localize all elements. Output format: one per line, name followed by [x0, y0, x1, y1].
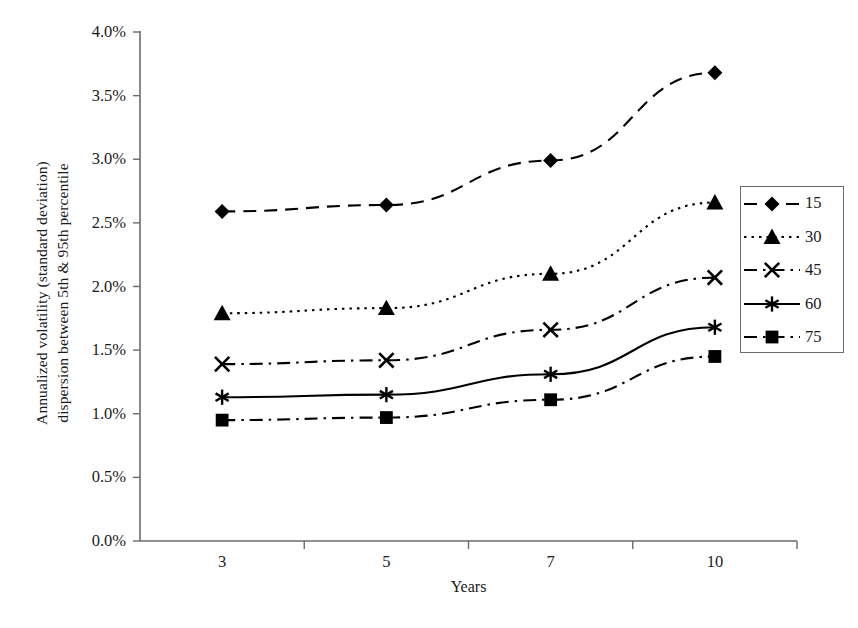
data-point-square-marker — [708, 350, 721, 363]
legend-item-75[interactable]: 75 — [741, 321, 843, 354]
data-point-square-marker — [216, 414, 229, 427]
data-point-diamond-marker — [215, 204, 230, 219]
data-point-square-marker — [766, 331, 779, 344]
data-point-triangle-marker — [214, 305, 231, 320]
legend-swatch-triangle-icon — [741, 224, 803, 250]
series-line-30 — [222, 203, 715, 314]
series-60 — [216, 320, 722, 405]
legend-item-60[interactable]: 60 — [741, 287, 843, 320]
data-point-square-marker — [544, 393, 557, 406]
data-point-triangle-marker — [764, 229, 781, 244]
series-line-60 — [222, 327, 715, 397]
legend-item-45[interactable]: 45 — [741, 254, 843, 287]
data-point-diamond-marker — [379, 198, 394, 213]
legend-label: 45 — [803, 262, 822, 279]
axes-lines — [133, 31, 797, 549]
legend-swatch-square-icon — [741, 324, 803, 350]
legend-swatch-asterisk-icon — [741, 291, 803, 317]
legend-label: 30 — [803, 229, 822, 246]
chart-container: Annualized volatility (standard deviatio… — [0, 0, 858, 628]
legend-label: 60 — [803, 296, 822, 313]
series-45 — [215, 270, 722, 371]
data-point-square-marker — [380, 411, 393, 424]
legend-label: 15 — [803, 195, 822, 212]
data-series-group — [214, 65, 724, 426]
series-30 — [214, 194, 724, 320]
legend-swatch-x-icon — [741, 257, 803, 283]
series-75 — [216, 350, 722, 426]
legend[interactable]: 1530456075 — [740, 186, 844, 353]
plot-area — [0, 0, 858, 628]
legend-swatch-diamond-icon — [741, 191, 803, 217]
legend-item-15[interactable]: 15 — [741, 187, 843, 220]
series-line-15 — [222, 73, 715, 212]
series-15 — [215, 65, 723, 219]
legend-item-30[interactable]: 30 — [741, 220, 843, 253]
data-point-diamond-marker — [543, 153, 558, 168]
series-line-75 — [222, 356, 715, 420]
data-point-diamond-marker — [765, 196, 780, 211]
data-point-diamond-marker — [707, 65, 722, 80]
legend-label: 75 — [803, 329, 822, 346]
